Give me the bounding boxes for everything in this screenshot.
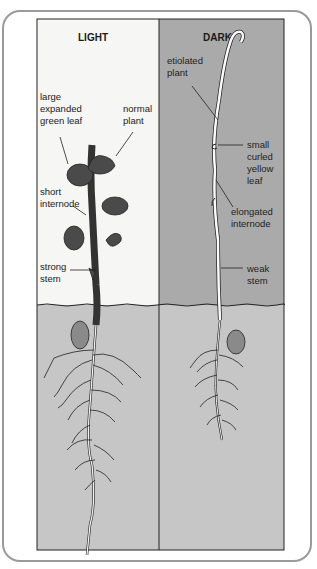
dark-seed <box>227 330 245 354</box>
svg-text:weakstem: weakstem <box>246 263 269 286</box>
light-seed <box>71 321 89 349</box>
etiolation-diagram: LIGHT DARK <box>0 0 317 569</box>
panel-title-light: LIGHT <box>78 32 108 43</box>
panel-title-dark: DARK <box>203 32 233 43</box>
svg-text:elongatedinternode: elongatedinternode <box>231 206 273 229</box>
